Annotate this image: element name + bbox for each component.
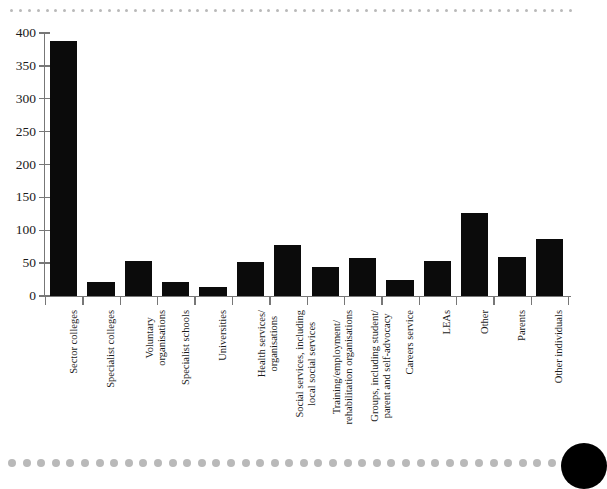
y-axis-tick-labels: 050100150200250300350400: [0, 18, 36, 448]
x-axis-category-label: Social services, includinglocal social s…: [294, 310, 317, 418]
decorative-dot: [37, 9, 40, 12]
decorative-dot: [533, 459, 541, 467]
decorative-dot: [259, 9, 262, 12]
x-axis-category-label: Other individuals: [553, 310, 565, 383]
bar: [424, 261, 451, 296]
decorative-dot: [256, 459, 264, 467]
x-axis-label-line: Groups, including student/: [369, 310, 381, 422]
decorative-dot: [152, 9, 155, 12]
decorative-dot: [460, 459, 468, 467]
decorative-dot: [490, 459, 498, 467]
x-axis-label-line: Voluntary: [144, 310, 156, 366]
decorative-dot: [90, 9, 93, 12]
x-axis-category-label: Voluntaryorganisations: [144, 310, 167, 366]
x-axis-label-line: Training/employment/: [331, 310, 343, 424]
y-axis-tick-label: 0: [2, 289, 36, 303]
x-axis-tick: [269, 296, 270, 305]
decorative-dot: [154, 459, 162, 467]
decorative-dot: [125, 459, 133, 467]
decorative-dot: [161, 9, 164, 12]
bar: [237, 262, 264, 296]
decorative-dot: [285, 459, 293, 467]
y-axis-tick: [39, 164, 50, 165]
decorative-dot: [63, 9, 66, 12]
bottom-dotted-rule: [8, 458, 556, 467]
y-axis-tick-label: 350: [2, 59, 36, 73]
corner-circle-decoration: [561, 443, 607, 489]
x-axis-label-line: Other individuals: [553, 310, 565, 383]
x-axis-category-labels: Sector collegesSpecialist collegesVolunt…: [45, 310, 568, 448]
y-axis-tick: [39, 262, 50, 263]
x-axis-label-line: Specialist schools: [180, 310, 192, 385]
decorative-dot: [356, 9, 359, 12]
x-axis-tick: [456, 296, 457, 305]
bar: [312, 267, 339, 296]
decorative-dot: [276, 9, 279, 12]
decorative-dot: [250, 9, 253, 12]
decorative-dot: [338, 9, 341, 12]
x-axis-label-line: Health services/: [256, 310, 268, 377]
decorative-dot: [134, 9, 137, 12]
decorative-dot: [436, 9, 439, 12]
decorative-dot: [463, 9, 466, 12]
decorative-dot: [409, 9, 412, 12]
x-axis-tick: [344, 296, 345, 305]
decorative-dot: [519, 459, 527, 467]
decorative-dot: [475, 459, 483, 467]
x-axis-label-line: Other: [479, 310, 491, 334]
x-axis-category-label: Health services/organisations: [256, 310, 279, 377]
x-axis-label-line: local social services: [305, 310, 317, 418]
y-axis-tick: [39, 131, 50, 132]
x-axis-category-label: Specialist colleges: [105, 310, 117, 388]
x-axis-label-line: parent and self-advocacy: [380, 310, 392, 422]
y-axis-tick: [39, 230, 50, 231]
y-axis-tick-label: 50: [2, 256, 36, 270]
decorative-dot: [373, 459, 381, 467]
decorative-dot: [205, 9, 208, 12]
x-axis-tick: [419, 296, 420, 305]
decorative-dot: [223, 9, 226, 12]
x-axis-label-line: Universities: [217, 310, 229, 361]
y-axis-tick: [39, 32, 50, 33]
decorative-dot: [427, 9, 430, 12]
x-axis-tick: [82, 296, 83, 305]
plot-area: [45, 33, 568, 296]
decorative-dot: [472, 9, 475, 12]
top-dotted-rule: [10, 8, 573, 13]
y-axis-tick: [39, 98, 50, 99]
decorative-dot: [330, 9, 333, 12]
decorative-dot: [23, 459, 31, 467]
decorative-dot: [365, 9, 368, 12]
decorative-dot: [170, 9, 173, 12]
x-axis-tick: [381, 296, 382, 305]
decorative-dot: [489, 9, 492, 12]
bar: [461, 213, 488, 297]
y-axis-tick: [39, 197, 50, 198]
decorative-dot: [504, 459, 512, 467]
x-axis-tick: [307, 296, 308, 305]
decorative-dot: [241, 9, 244, 12]
x-axis-tick: [531, 296, 532, 305]
decorative-dot: [54, 9, 57, 12]
decorative-dot: [52, 459, 60, 467]
decorative-dot: [347, 9, 350, 12]
decorative-dot: [212, 459, 220, 467]
decorative-dot: [418, 9, 421, 12]
decorative-dot: [232, 9, 235, 12]
bar: [498, 257, 525, 296]
bar: [87, 282, 114, 296]
x-axis-tick: [157, 296, 158, 305]
decorative-dot: [300, 459, 308, 467]
decorative-dot: [312, 9, 315, 12]
y-axis-tick-label: 100: [2, 223, 36, 237]
x-axis-label-line: rehabilitation organisations: [343, 310, 355, 424]
decorative-dot: [551, 9, 554, 12]
y-axis-tick-label: 200: [2, 158, 36, 172]
decorative-dot: [401, 9, 404, 12]
bar: [536, 239, 563, 296]
decorative-dot: [445, 9, 448, 12]
decorative-dot: [303, 9, 306, 12]
decorative-dot: [143, 9, 146, 12]
decorative-dot: [117, 9, 120, 12]
decorative-dot: [358, 459, 366, 467]
